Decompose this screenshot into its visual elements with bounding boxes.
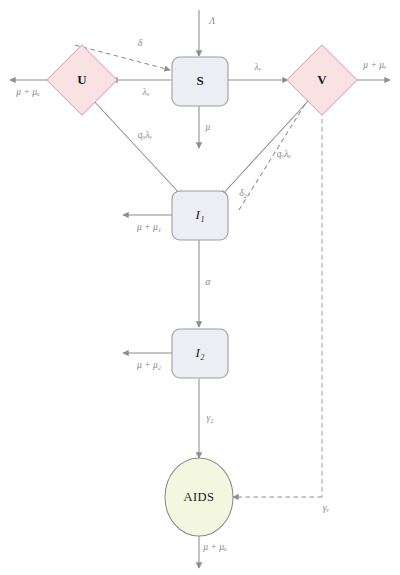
- edge-label-inflow-lambda: Λ: [208, 16, 215, 26]
- edge-label-i2-death: μ + μ₂: [136, 360, 162, 370]
- node-u-label: U: [77, 72, 87, 87]
- edge-label-u-death: μ + μᵤ: [15, 87, 40, 97]
- edge-label-i1-death: μ + μ₁: [136, 222, 161, 232]
- edge-u-to-i1: [92, 99, 182, 196]
- node-s-label: S: [196, 73, 203, 88]
- diagram-canvas: S U V I₁ I₂ AIDS Λ λᵤ λᵥ μ μ + μᵤ μ + μᵥ…: [0, 0, 400, 575]
- edge-v-to-i1: [221, 100, 309, 196]
- compartmental-diagram: S U V I₁ I₂ AIDS Λ λᵤ λᵥ μ μ + μᵤ μ + μᵥ…: [0, 0, 400, 575]
- edge-label-delta: δ: [138, 38, 143, 48]
- edge-label-v-to-i1: qᵥλᵤ: [277, 149, 292, 159]
- edge-label-alpha: α: [206, 277, 212, 287]
- node-v-label: V: [317, 72, 327, 87]
- edge-label-delta2: δ₂: [239, 188, 247, 198]
- edge-i1-to-v-delta2: [239, 93, 312, 210]
- edge-label-u-to-i1: qᵤλᵥ: [138, 130, 153, 140]
- edge-label-v-death: μ + μᵥ: [362, 60, 387, 70]
- edge-label-s-to-u: λᵤ: [142, 87, 150, 97]
- edge-label-s-to-v: λᵥ: [254, 62, 262, 72]
- node-i2-label: I₂: [195, 345, 205, 360]
- edge-label-s-death: μ: [205, 122, 211, 132]
- edge-label-aids-death: μ + μₐ: [202, 542, 227, 552]
- node-aids-label: AIDS: [184, 490, 215, 504]
- node-i1-label: I₁: [195, 207, 205, 222]
- edge-label-gamma2: γ₂: [206, 413, 214, 423]
- edge-label-gamma-v: γᵥ: [323, 503, 330, 513]
